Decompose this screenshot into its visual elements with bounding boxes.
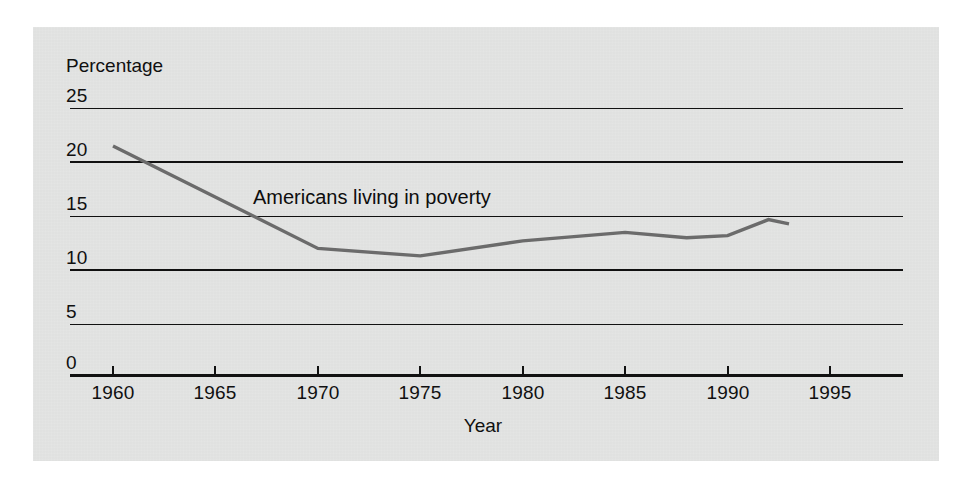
y-tick-label-20: 20 xyxy=(66,139,88,161)
y-tick-label-25: 25 xyxy=(66,85,88,107)
chart-plot-area xyxy=(0,0,966,487)
x-tick-label-1980: 1980 xyxy=(483,382,563,404)
y-tick-label-10: 10 xyxy=(66,247,88,269)
x-tick-label-1965: 1965 xyxy=(175,382,255,404)
x-axis-title: Year xyxy=(0,415,966,437)
gridlines xyxy=(70,109,903,325)
y-tick-label-15: 15 xyxy=(66,193,88,215)
x-tick-label-1975: 1975 xyxy=(380,382,460,404)
x-tick-label-1970: 1970 xyxy=(278,382,358,404)
x-tick-label-1995: 1995 xyxy=(790,382,870,404)
series-annotation-label: Americans living in poverty xyxy=(253,186,491,209)
x-tick-label-1990: 1990 xyxy=(688,382,768,404)
x-tick-label-1985: 1985 xyxy=(585,382,665,404)
x-tick-label-1960: 1960 xyxy=(73,382,153,404)
y-tick-label-5: 5 xyxy=(66,301,77,323)
y-tick-label-0: 0 xyxy=(66,352,77,374)
poverty-line-chart-figure: Percentage 25 20 15 10 5 xyxy=(0,0,966,487)
